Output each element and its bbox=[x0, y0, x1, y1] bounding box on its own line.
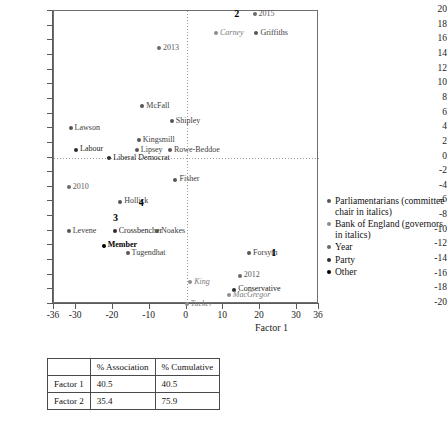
data-point: Carney bbox=[214, 29, 244, 37]
data-point: Rowe-Beddoe bbox=[168, 146, 220, 154]
table-header-row: % Association% Cumulative bbox=[48, 359, 220, 376]
table-cell: 40.5 bbox=[155, 376, 220, 393]
data-point-marker bbox=[227, 293, 231, 297]
y-tick-label: 2 bbox=[403, 137, 447, 147]
y-tick bbox=[47, 69, 52, 70]
table-cell: 75.9 bbox=[155, 393, 220, 410]
x-tick-label: -10 bbox=[129, 311, 169, 321]
plot-area: 2015CarneyGriffiths2013McFallShipleyLaws… bbox=[53, 10, 318, 303]
data-point-marker bbox=[113, 229, 117, 233]
variance-table: % Association% Cumulative Factor 140.540… bbox=[47, 358, 220, 410]
data-point: King bbox=[188, 278, 210, 286]
x-tick-label: 0 bbox=[166, 311, 206, 321]
x-tick-label: 36 bbox=[298, 311, 338, 321]
x-tick-label: -30 bbox=[55, 311, 95, 321]
y-tick bbox=[47, 25, 52, 26]
quadrant-number: 1 bbox=[271, 248, 276, 258]
data-point-label: Kingsmill bbox=[143, 135, 175, 144]
data-point: Liberal Democrat bbox=[107, 154, 172, 162]
data-point: 2013 bbox=[157, 44, 179, 52]
data-point: MacGregor bbox=[227, 291, 270, 299]
y-tick-label: 6 bbox=[403, 108, 447, 118]
data-point: McFall bbox=[140, 102, 169, 110]
y-tick-label: 16 bbox=[403, 34, 447, 44]
legend-item-parliamentarians: Parliamentarians (committee chair in ita… bbox=[327, 196, 445, 217]
y-tick bbox=[47, 259, 52, 260]
table-cell: 40.5 bbox=[90, 376, 155, 393]
legend-label: Year bbox=[335, 242, 445, 253]
data-point-marker bbox=[157, 46, 161, 50]
data-point-marker bbox=[253, 12, 257, 16]
legend-marker bbox=[327, 222, 331, 226]
data-point: 2012 bbox=[238, 271, 260, 279]
data-point-label: MacGregor bbox=[233, 290, 270, 299]
table-row: Factor 235.475.9 bbox=[48, 393, 220, 410]
legend-marker bbox=[327, 199, 331, 203]
table-row-header: Factor 1 bbox=[48, 376, 91, 393]
y-tick-label: 18 bbox=[403, 20, 447, 30]
data-point-label: Noakes bbox=[161, 226, 185, 235]
data-point-marker bbox=[107, 156, 111, 160]
legend-label: Parliamentarians (committee chair in ita… bbox=[335, 196, 445, 217]
x-tick bbox=[296, 304, 297, 309]
x-tick bbox=[149, 304, 150, 309]
y-tick-label: 12 bbox=[403, 64, 447, 74]
data-point: Hollick bbox=[118, 197, 148, 205]
data-point-marker bbox=[238, 274, 242, 278]
reference-line-horizontal bbox=[54, 158, 319, 159]
y-tick-label: -4 bbox=[403, 181, 447, 191]
y-tick bbox=[47, 113, 52, 114]
data-point-marker bbox=[137, 138, 141, 142]
y-tick-label: 4 bbox=[403, 122, 447, 132]
y-tick bbox=[47, 171, 52, 172]
y-tick bbox=[47, 215, 52, 216]
y-tick bbox=[47, 83, 52, 84]
x-tick bbox=[53, 304, 54, 309]
data-point-label: Labour bbox=[80, 145, 103, 154]
y-tick bbox=[47, 98, 52, 99]
table-row-header: Factor 2 bbox=[48, 393, 91, 410]
y-tick bbox=[47, 288, 52, 289]
legend-item-bank-of-england: Bank of England (governors in italics) bbox=[327, 219, 445, 240]
data-point-marker bbox=[102, 244, 106, 248]
data-point: Tucker bbox=[185, 300, 215, 308]
data-point-marker bbox=[170, 119, 174, 123]
data-point-marker bbox=[126, 251, 130, 255]
y-tick-label: -2 bbox=[403, 166, 447, 176]
data-point-marker bbox=[67, 229, 71, 233]
legend-marker bbox=[327, 258, 331, 262]
y-tick bbox=[47, 39, 52, 40]
data-point: Shipley bbox=[170, 117, 200, 125]
y-tick bbox=[47, 10, 52, 11]
data-point-label: Tugendhat bbox=[132, 248, 166, 257]
data-point: Lawson bbox=[69, 124, 100, 132]
data-point-marker bbox=[155, 229, 159, 233]
x-tick bbox=[112, 304, 113, 309]
y-tick-label: -20 bbox=[403, 298, 447, 308]
table-row: Factor 140.540.5 bbox=[48, 376, 220, 393]
data-point: Griffiths bbox=[254, 29, 287, 37]
data-point-marker bbox=[135, 148, 139, 152]
y-tick bbox=[47, 54, 52, 55]
data-point-label: 2015 bbox=[259, 9, 275, 18]
x-tick bbox=[75, 304, 76, 309]
legend-item-year: Year bbox=[327, 242, 445, 253]
y-tick-label: 0 bbox=[403, 152, 447, 162]
x-tick-label: -20 bbox=[92, 311, 132, 321]
data-point: Kingsmill bbox=[137, 136, 175, 144]
data-point: 2015 bbox=[253, 10, 275, 18]
data-point-label: Carney bbox=[220, 28, 244, 37]
x-tick bbox=[318, 304, 319, 309]
legend-item-other: Other bbox=[327, 267, 445, 278]
y-tick-label: 20 bbox=[403, 5, 447, 15]
data-point: Levene bbox=[67, 227, 97, 235]
quadrant-number: 2 bbox=[234, 9, 239, 19]
legend-label: Other bbox=[335, 267, 445, 278]
y-tick-label: 10 bbox=[403, 78, 447, 88]
legend-marker bbox=[327, 270, 331, 274]
data-point-marker bbox=[168, 148, 172, 152]
y-tick bbox=[47, 186, 52, 187]
x-axis-title: Factor 1 bbox=[255, 322, 288, 333]
data-point-marker bbox=[67, 185, 71, 189]
data-point: Fisher bbox=[173, 175, 199, 183]
